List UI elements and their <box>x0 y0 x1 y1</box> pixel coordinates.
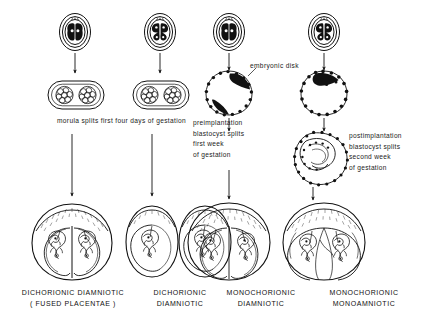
outcome-label-3: MONOCHORIONIC DIAMNIOTIC <box>209 287 313 309</box>
blastocyst-one-disk-column-4 <box>300 70 349 131</box>
outcome-3-line-1: MONOCHORIONIC <box>209 287 313 298</box>
preimplantation-line-1: preimplantation <box>193 118 244 129</box>
zygote-column-4 <box>309 14 340 71</box>
outcome-1-line-1: DICHORIONIC DIAMNIOTIC <box>0 287 146 298</box>
outcome-label-4: MONOCHORIONIC MONOAMNIOTIC <box>310 287 418 309</box>
preimplantation-line-3: first week <box>193 139 244 150</box>
outcome-illustration-2 <box>126 206 231 277</box>
morula-pair-column-1 <box>48 81 104 109</box>
caption-morula-splits: morula splits first four days of gestati… <box>57 116 186 127</box>
outcome-4-line-2: MONOAMNIOTIC <box>310 298 418 309</box>
preimplantation-line-4: of gestation <box>193 150 244 161</box>
postimplantation-line-4: of gestation <box>349 163 402 174</box>
outcome-3-line-2: DIAMNIOTIC <box>209 298 313 309</box>
outcome-1-line-2: ( FUSED PLACENTAE ) <box>0 298 146 309</box>
preimplantation-line-2: blastocyst splits <box>193 129 244 140</box>
implanted-blastocyst-column-4 <box>293 131 349 200</box>
morula-pair-column-2 <box>133 81 189 109</box>
outcome-4-line-1: MONOCHORIONIC <box>310 287 418 298</box>
outcome-illustration-4 <box>283 203 365 280</box>
outcome-illustration-1 <box>32 204 112 280</box>
caption-preimplantation: preimplantation blastocyst splits first … <box>193 118 244 160</box>
postimplantation-line-2: blastocyst splits <box>349 142 402 153</box>
zygote-column-1 <box>60 14 91 74</box>
postimplantation-line-3: second week <box>349 152 402 163</box>
caption-postimplantation: postimplantation blastocyst splits secon… <box>349 131 402 173</box>
postimplantation-line-1: postimplantation <box>349 131 402 142</box>
label-embryonic-disk: embryonic disk <box>250 61 299 72</box>
zygote-column-2 <box>145 14 176 74</box>
zygote-column-3 <box>214 14 245 71</box>
outcome-label-1: DICHORIONIC DIAMNIOTIC ( FUSED PLACENTAE… <box>0 287 146 309</box>
